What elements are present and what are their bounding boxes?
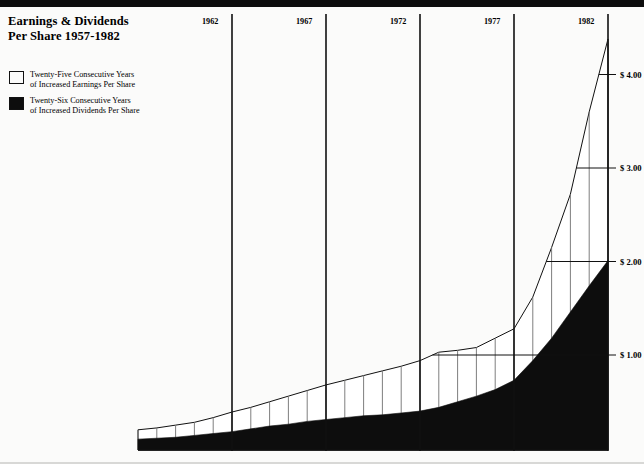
y-tick-label-1: $ 2.00 xyxy=(620,257,641,267)
y-tick-label-2: $ 3.00 xyxy=(620,163,641,173)
y-tick-label-0: $ 1.00 xyxy=(620,350,641,360)
x-tick-label-1977: 1977 xyxy=(484,17,500,26)
x-tick-label-1967: 1967 xyxy=(296,17,312,26)
x-tick-label-1972: 1972 xyxy=(390,17,406,26)
x-tick-label-1982: 1982 xyxy=(578,17,594,26)
x-tick-label-1962: 1962 xyxy=(202,17,218,26)
area-chart xyxy=(0,0,644,464)
y-tick-label-3: $ 4.00 xyxy=(620,70,641,80)
chart-page: Earnings & Dividends Per Share 1957-1982… xyxy=(0,0,644,464)
